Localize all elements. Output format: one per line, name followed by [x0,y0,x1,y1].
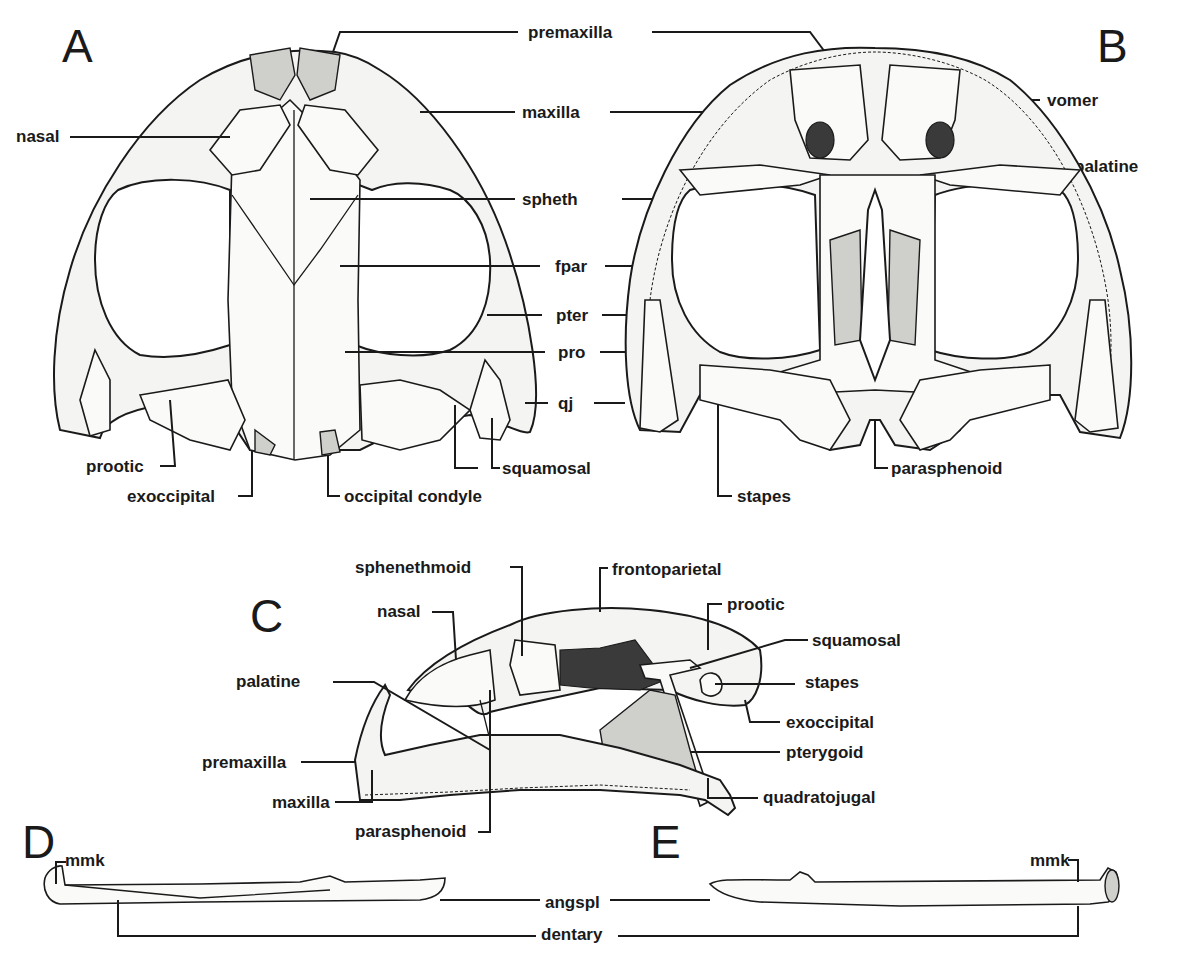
label-nasal-a: nasal [16,127,59,146]
label-pterygoid-c: pterygoid [786,743,863,762]
label-stapes-b: stapes [737,487,791,506]
label-squamosal-c: squamosal [812,631,901,650]
panel-c-lateral-skull: C [250,590,761,815]
label-dentary-de: dentary [541,925,603,944]
panel-a-dorsal-skull: A [54,20,536,460]
braincase-b-left [830,230,862,345]
label-palatine-c: palatine [236,672,300,691]
label-pter-ab: pter [556,306,589,325]
label-pro-ab: pro [558,343,585,362]
braincase-b-right [888,230,920,345]
label-stapes-c: stapes [805,673,859,692]
label-frontoparietal-c: frontoparietal [612,560,722,579]
label-maxilla-c: maxilla [272,793,330,812]
skull-anatomy-figure: A premaxilla maxilla nasal [0,0,1181,958]
label-exoccipital-a: exoccipital [127,487,215,506]
label-maxilla-ab: maxilla [522,103,580,122]
leaders-c: sphenethmoid frontoparietal nasal prooti… [202,558,901,841]
label-premaxilla-ab: premaxilla [528,23,613,42]
sphenethmoid-c [510,640,560,695]
label-squamosal-a: squamosal [502,459,591,478]
panel-label-d: D [22,816,55,868]
label-qj-ab: qj [558,394,573,413]
label-parasphenoid-b: parasphenoid [891,459,1002,478]
label-parasphenoid-c: parasphenoid [355,822,466,841]
panel-label-c: C [250,590,283,642]
label-spheth-ab: spheth [522,190,578,209]
label-mmk-e: mmk [1030,851,1070,870]
label-mmk-d: mmk [65,851,105,870]
label-nasal-c: nasal [377,602,420,621]
label-occipital-condyle-a: occipital condyle [344,487,482,506]
panel-label-b: B [1097,20,1128,72]
orbit-a-left [95,180,230,357]
panel-b-ventral-skull: B [626,20,1132,450]
jaw-e [710,868,1118,906]
label-exoccipital-c: exoccipital [786,713,874,732]
label-prootic-a: prootic [86,457,144,476]
label-sphenethmoid-c: sphenethmoid [355,558,471,577]
label-prootic-c: prootic [727,595,785,614]
label-premaxilla-c: premaxilla [202,753,287,772]
mmk-e-condyle [1105,870,1119,902]
label-quadratojugal-c: quadratojugal [763,788,875,807]
panel-label-a: A [62,20,93,72]
jaw-d [44,866,445,904]
panel-label-e: E [650,816,681,868]
choana-left [806,122,834,158]
label-angspl-de: angspl [545,893,600,912]
label-fpar-ab: fpar [555,257,588,276]
choana-right [926,122,954,158]
label-vomer-b: vomer [1047,91,1098,110]
